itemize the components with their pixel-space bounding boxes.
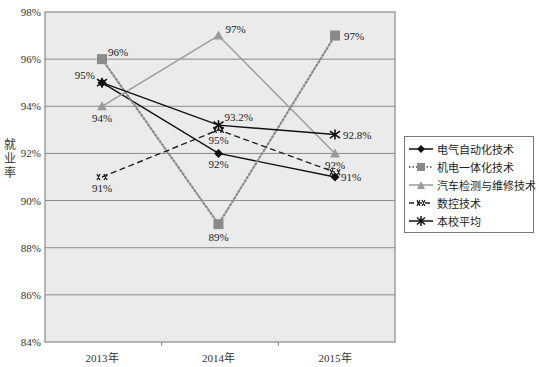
y-tick-label: 86% (21, 289, 41, 301)
legend-label: 汽车检测与维修技术 (437, 177, 536, 193)
data-label: 94% (92, 112, 112, 124)
diamond-marker-icon (409, 144, 433, 154)
asterisk-marker-icon (409, 216, 433, 226)
y-tick-label: 92% (21, 147, 41, 159)
double-cross-marker-icon (409, 198, 433, 208)
data-label: 91% (341, 171, 361, 183)
y-tick-label: 96% (21, 53, 41, 65)
legend-item-automotive: 汽车检测与维修技术 (409, 176, 529, 194)
data-label: 96% (108, 46, 128, 58)
legend-label: 电气自动化技术 (437, 141, 514, 157)
y-axis-title: 就业率 (4, 138, 18, 180)
data-label: 89% (208, 231, 228, 243)
x-tick-label: 2013年 (86, 351, 119, 364)
y-tick-label: 90% (21, 195, 41, 207)
x-axis-ticks: 2013年2014年2015年 (86, 342, 352, 364)
x-tick-label: 2014年 (202, 351, 235, 364)
triangle-marker-icon (409, 180, 433, 190)
x-tick-label: 2015年 (319, 351, 352, 364)
y-tick-label: 88% (21, 242, 41, 254)
data-label: 92% (208, 158, 228, 170)
y-tick-label: 98% (21, 6, 41, 18)
legend-label: 数控技术 (437, 195, 481, 211)
data-label: 93.2% (225, 111, 253, 123)
data-label: 95% (208, 134, 228, 146)
legend-item-electrical: 电气自动化技术 (409, 140, 529, 158)
data-label: 91% (92, 182, 112, 194)
data-label: 95% (75, 69, 95, 81)
y-tick-label: 84% (21, 336, 41, 348)
legend-label: 机电一体化技术 (437, 159, 514, 175)
y-tick-label: 94% (21, 100, 41, 112)
legend: 电气自动化技术 机电一体化技术 汽车检测与维修技术 数控技术 本校平均 (404, 136, 534, 233)
legend-item-cnc: 数控技术 (409, 194, 529, 212)
y-axis-ticks: 84%86%88%90%92%94%96%98% (21, 6, 41, 348)
data-label: 92% (325, 159, 345, 171)
square-marker-icon (409, 162, 433, 172)
legend-item-school-average: 本校平均 (409, 212, 529, 230)
data-label: 97% (344, 30, 364, 42)
data-label: 92.8% (343, 129, 371, 141)
data-label: 97% (226, 23, 246, 35)
legend-item-mechatronics: 机电一体化技术 (409, 158, 529, 176)
legend-label: 本校平均 (437, 213, 481, 229)
